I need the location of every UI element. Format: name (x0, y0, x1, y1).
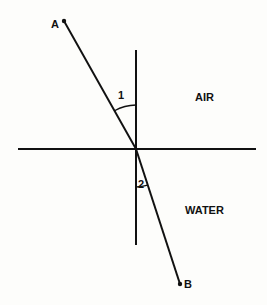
air-label: AIR (195, 91, 214, 103)
diagram-svg: A B 1 2 AIR WATER (0, 0, 267, 305)
angle-2-label: 2 (138, 178, 144, 190)
incident-ray (64, 21, 136, 149)
angle-1-arc (115, 105, 137, 111)
point-a-dot (62, 19, 66, 23)
angle-1-label: 1 (118, 89, 124, 101)
refraction-diagram: A B 1 2 AIR WATER (0, 0, 267, 305)
water-label: WATER (185, 204, 224, 216)
refracted-ray (136, 149, 180, 284)
point-b-dot (178, 282, 182, 286)
point-b-label: B (184, 278, 192, 290)
point-a-label: A (51, 18, 59, 30)
